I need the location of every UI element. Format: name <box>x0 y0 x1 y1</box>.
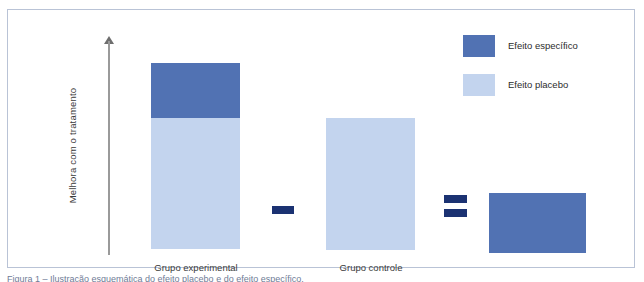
legend-label-efeito-placebo: Efeito placebo <box>508 79 568 90</box>
legend-swatch-efeito-especifico <box>463 35 495 57</box>
equals-bar-top <box>444 195 467 203</box>
operator-minus-icon <box>272 206 294 214</box>
bar-segment-efeito-placebo <box>326 118 415 250</box>
legend-swatch-efeito-placebo <box>463 74 495 96</box>
y-axis-line <box>108 41 110 255</box>
bar-grupo-controle <box>326 118 415 250</box>
bar-resultado <box>489 193 586 253</box>
legend-label-efeito-especifico: Efeito específico <box>508 40 578 51</box>
bar-segment-efeito-especifico <box>151 63 240 118</box>
x-axis-label-grupo-controle: Grupo controle <box>286 262 456 273</box>
figure-root: Melhora com o tratamento Grupo experimen… <box>0 0 644 282</box>
bar-grupo-experimental <box>151 63 240 249</box>
bar-segment-efeito-especifico <box>489 193 586 253</box>
figure-caption: Figura 1 – Ilustração esquemática do efe… <box>7 274 507 282</box>
equals-bar-bottom <box>444 209 467 217</box>
operator-equals-icon <box>444 195 467 217</box>
figure-frame: Melhora com o tratamento Grupo experimen… <box>7 9 635 268</box>
bar-segment-efeito-placebo <box>151 118 240 249</box>
x-axis-label-grupo-experimental: Grupo experimental <box>111 262 281 273</box>
y-axis-label: Melhora com o tratamento <box>67 56 78 236</box>
